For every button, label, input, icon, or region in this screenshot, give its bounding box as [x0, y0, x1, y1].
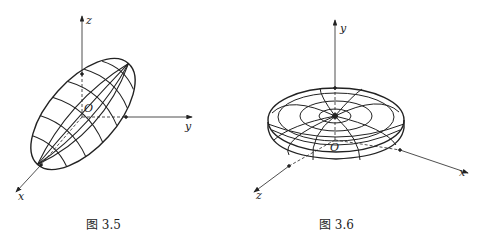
x-axis-label: x [18, 190, 25, 203]
z-axis-label: z [255, 189, 262, 202]
caption-fig-3-6: 图 3.6 [319, 215, 354, 231]
figure-3-6 [254, 20, 468, 192]
x-axis [16, 166, 40, 192]
x-axis-label: x [459, 166, 466, 179]
figures-canvas: z y x O y x z O [0, 0, 478, 231]
y-axis-label: y [184, 120, 192, 133]
origin-label: O [84, 102, 93, 115]
x-axis [400, 150, 468, 173]
caption-fig-3-5: 图 3.5 [86, 215, 121, 231]
y-axis-label: y [339, 22, 347, 35]
z-axis-label: z [85, 14, 92, 27]
origin-label: O [330, 141, 339, 154]
figure-3-5 [12, 16, 192, 192]
